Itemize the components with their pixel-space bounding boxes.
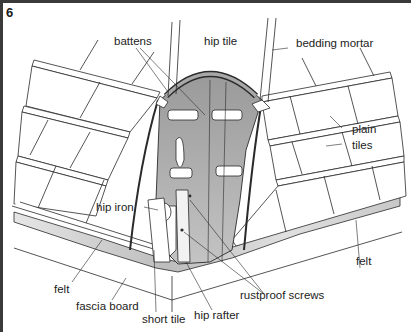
label-hip-tile: hip tile <box>204 36 237 48</box>
label-plain-tiles-line1: plain <box>352 124 376 136</box>
label-plain-tiles-line2: tiles <box>352 140 372 152</box>
label-short-tile: short tile <box>142 314 185 326</box>
label-fascia-board: fascia board <box>76 301 139 313</box>
right-roof-tiles <box>232 48 406 246</box>
label-felt-left: felt <box>54 284 69 296</box>
label-hip-iron: hip iron <box>96 202 134 214</box>
label-hip-rafter: hip rafter <box>194 310 239 322</box>
label-bedding-mortar: bedding mortar <box>296 38 373 50</box>
label-battens: battens <box>114 36 152 48</box>
label-rustproof-screws: rustproof screws <box>240 290 324 302</box>
diagram-frame: 6 <box>0 0 411 332</box>
label-felt-right: felt <box>356 256 371 268</box>
